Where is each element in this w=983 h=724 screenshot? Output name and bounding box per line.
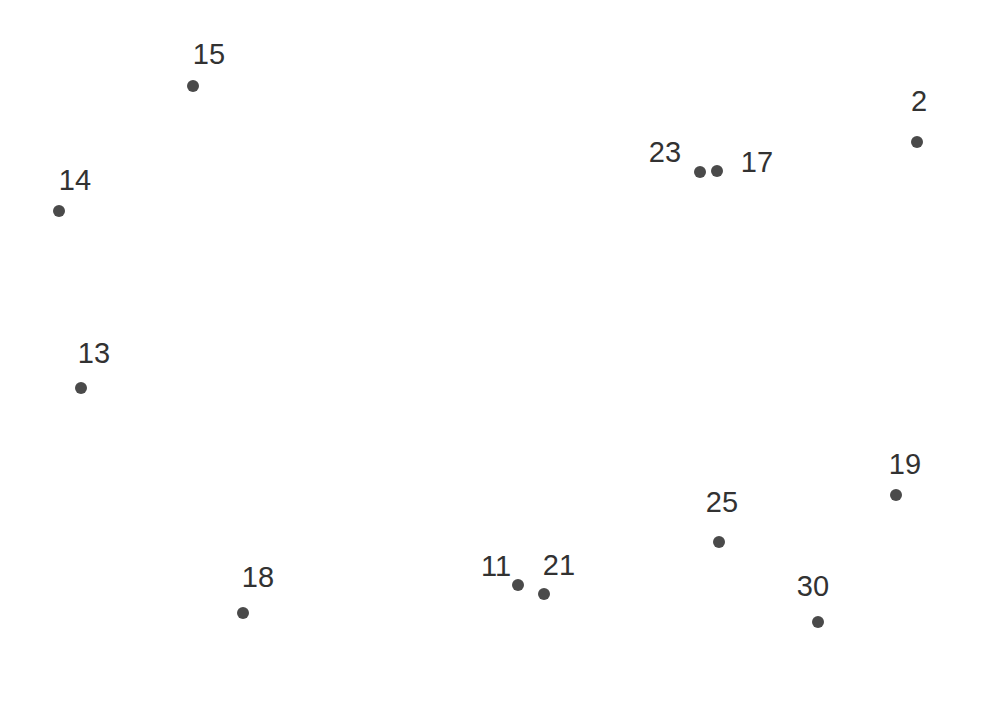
scatter-point-label: 30 <box>797 572 829 601</box>
scatter-point-marker[interactable] <box>694 166 706 178</box>
scatter-point-marker[interactable] <box>890 489 902 501</box>
scatter-point-label: 13 <box>78 339 110 368</box>
scatter-point-marker[interactable] <box>711 165 723 177</box>
scatter-point-label: 25 <box>706 488 738 517</box>
scatter-point-marker[interactable] <box>812 616 824 628</box>
scatter-point-marker[interactable] <box>187 80 199 92</box>
scatter-point-marker[interactable] <box>53 205 65 217</box>
scatter-point-label: 15 <box>193 40 225 69</box>
scatter-point-label: 17 <box>741 148 773 177</box>
scatter-point-label: 14 <box>59 166 91 195</box>
scatter-point-label: 2 <box>911 87 927 116</box>
scatter-point-marker[interactable] <box>75 382 87 394</box>
scatter-point-label: 19 <box>889 450 921 479</box>
scatter-point-label: 23 <box>649 138 681 167</box>
scatter-plot-canvas: 15223171413192511211830 <box>0 0 983 724</box>
scatter-point-marker[interactable] <box>512 579 524 591</box>
scatter-point-marker[interactable] <box>713 536 725 548</box>
scatter-point-label: 18 <box>242 563 274 592</box>
scatter-point-marker[interactable] <box>237 607 249 619</box>
scatter-point-marker[interactable] <box>538 588 550 600</box>
scatter-point-label: 21 <box>543 551 575 580</box>
scatter-point-marker[interactable] <box>911 136 923 148</box>
scatter-point-label: 11 <box>481 552 511 581</box>
